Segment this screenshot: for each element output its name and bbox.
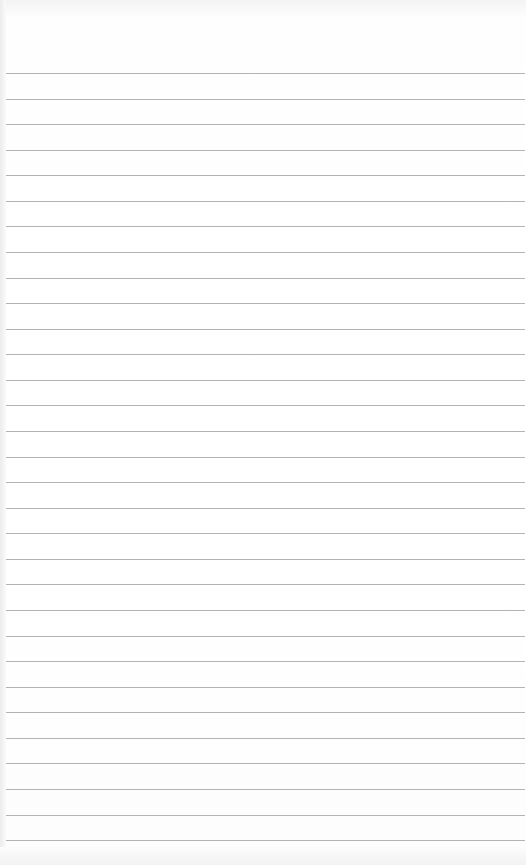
ruled-line [6, 303, 525, 304]
ruled-line [6, 124, 525, 125]
ruled-line [6, 763, 525, 764]
ruled-line [6, 840, 525, 841]
ruled-line [6, 150, 525, 151]
ruled-line [6, 457, 525, 458]
paper-left-edge [0, 0, 6, 865]
ruled-line [6, 99, 525, 100]
ruled-line [6, 789, 525, 790]
ruled-line [6, 533, 525, 534]
ruled-line [6, 73, 525, 74]
ruled-line [6, 482, 525, 483]
ruled-line [6, 687, 525, 688]
ruled-line [6, 815, 525, 816]
ruled-line [6, 636, 525, 637]
ruled-line [6, 278, 525, 279]
ruled-line [6, 610, 525, 611]
ruled-line [6, 712, 525, 713]
ruled-line [6, 738, 525, 739]
ruled-line [6, 584, 525, 585]
ruled-line [6, 252, 525, 253]
ruled-line [6, 431, 525, 432]
ruled-line [6, 175, 525, 176]
lined-paper-sheet [0, 0, 526, 865]
ruled-line [6, 661, 525, 662]
ruled-line [6, 201, 525, 202]
ruled-line [6, 380, 525, 381]
ruled-line [6, 405, 525, 406]
ruled-line [6, 508, 525, 509]
ruled-line [6, 354, 525, 355]
ruled-line [6, 226, 525, 227]
ruled-line [6, 559, 525, 560]
paper-bottom-edge [0, 847, 526, 865]
ruled-line [6, 329, 525, 330]
